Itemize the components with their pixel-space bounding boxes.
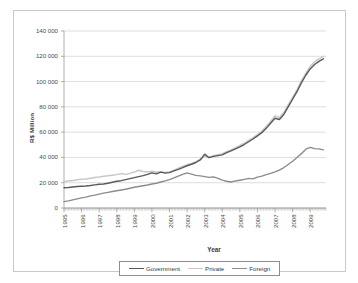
chart-frame: R$ Million Year 020 00040 00060 00080 00…	[13, 10, 346, 272]
x-axis-tick-label: 2003	[202, 214, 209, 236]
y-axis-tick-label: 40 000	[20, 153, 58, 160]
x-axis-tick-label: 1998	[114, 214, 121, 236]
legend-swatch-icon	[232, 268, 247, 269]
x-axis-tick-label: 2004	[219, 214, 226, 236]
x-axis-tick-label: 2009	[307, 214, 314, 236]
legend-swatch-icon	[188, 268, 203, 269]
x-axis-tick-label: 2005	[237, 214, 244, 236]
y-axis-tick-label: 0	[20, 204, 58, 211]
x-axis-tick-label: 1995	[61, 214, 68, 236]
legend-label: Private	[205, 265, 224, 272]
y-axis-tick-label: 60 000	[20, 128, 58, 135]
legend-item[interactable]: Foreign	[232, 265, 270, 272]
x-axis-tick-label: 2008	[290, 214, 297, 236]
legend-item[interactable]: Private	[188, 265, 224, 272]
x-axis-title: Year	[164, 246, 264, 253]
x-axis-tick-label: 2000	[149, 214, 156, 236]
legend-swatch-icon	[129, 268, 144, 269]
legend-label: Government	[146, 265, 180, 272]
x-axis-tick-label: 1999	[131, 214, 138, 236]
legend-label: Foreign	[249, 265, 270, 272]
x-axis-tick-label: 2006	[254, 214, 261, 236]
y-axis-tick-label: 120 000	[20, 52, 58, 59]
y-axis-tick-label: 100 000	[20, 78, 58, 85]
x-axis-tick-label: 1997	[96, 214, 103, 236]
x-axis-tick-label: 2001	[167, 214, 174, 236]
x-axis-tick-label: 2007	[272, 214, 279, 236]
x-axis-tick-label: 2002	[184, 214, 191, 236]
x-axis-tick-label: 1996	[79, 214, 86, 236]
legend-item[interactable]: Government	[129, 265, 180, 272]
y-axis-tick-label: 20 000	[20, 179, 58, 186]
y-axis-tick-label: 140 000	[20, 27, 58, 34]
chart-legend: GovernmentPrivateForeign	[119, 261, 280, 276]
y-axis-tick-label: 80 000	[20, 103, 58, 110]
chart-figure: R$ Million Year 020 00040 00060 00080 00…	[0, 0, 358, 283]
